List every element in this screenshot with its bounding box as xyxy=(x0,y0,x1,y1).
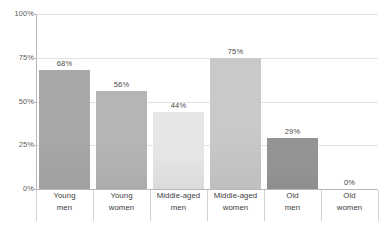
x-category-line1: Young xyxy=(53,191,75,200)
y-tick-label: 50% xyxy=(2,98,34,106)
y-tick-25: 25% xyxy=(0,141,34,149)
y-tick-100: 100% xyxy=(0,10,34,18)
y-tick-label: 75% xyxy=(2,54,34,62)
x-category-line2: women xyxy=(321,202,378,214)
x-category-line2: men xyxy=(36,202,93,214)
bar[interactable] xyxy=(39,70,90,189)
bar[interactable] xyxy=(267,138,318,189)
bar[interactable] xyxy=(210,58,261,189)
y-tick-50: 50% xyxy=(0,98,34,106)
bar-slot: 44% xyxy=(150,14,207,189)
bar-slot: 68% xyxy=(36,14,93,189)
x-category-line1: Old xyxy=(286,191,298,200)
x-category-label: Youngmen xyxy=(36,190,93,213)
x-category-line2: men xyxy=(150,202,207,214)
x-category-label: Middle-agedwomen xyxy=(207,190,264,213)
x-category-line2: women xyxy=(207,202,264,214)
bar-value-label: 56% xyxy=(93,80,150,89)
x-category-label: Middle-agedmen xyxy=(150,190,207,213)
bar-value-label: 0% xyxy=(321,178,378,187)
x-category-line1: Middle-aged xyxy=(157,191,200,200)
x-axis-labels: YoungmenYoungwomenMiddle-agedmenMiddle-a… xyxy=(36,190,378,231)
bar[interactable] xyxy=(153,112,204,189)
bar-value-label: 75% xyxy=(207,47,264,56)
x-category-label: Oldmen xyxy=(264,190,321,213)
x-category-line2: men xyxy=(264,202,321,214)
y-tick-0: 0% xyxy=(0,185,34,193)
x-category-line1: Old xyxy=(343,191,355,200)
x-category-line1: Middle-aged xyxy=(214,191,257,200)
bar-value-label: 29% xyxy=(264,127,321,136)
category-separator xyxy=(378,190,379,221)
bar-slot: 29% xyxy=(264,14,321,189)
bar-value-label: 44% xyxy=(150,101,207,110)
bar-chart: 100%75%50%25%0% 68%56%44%75%29%0% Youngm… xyxy=(0,0,392,231)
x-category-line1: Young xyxy=(110,191,132,200)
y-tick-label: 0% xyxy=(2,185,34,193)
x-category-label: Oldwomen xyxy=(321,190,378,213)
bar-slot: 0% xyxy=(321,14,378,189)
x-category-label: Youngwomen xyxy=(93,190,150,213)
bar-value-label: 68% xyxy=(36,59,93,68)
y-tick-label: 100% xyxy=(2,10,34,18)
y-tick-label: 25% xyxy=(2,141,34,149)
bar[interactable] xyxy=(96,91,147,189)
x-category-line2: women xyxy=(93,202,150,214)
bar-slot: 56% xyxy=(93,14,150,189)
bar-slot: 75% xyxy=(207,14,264,189)
y-tick-75: 75% xyxy=(0,54,34,62)
plot-area: 68%56%44%75%29%0% xyxy=(36,14,378,189)
